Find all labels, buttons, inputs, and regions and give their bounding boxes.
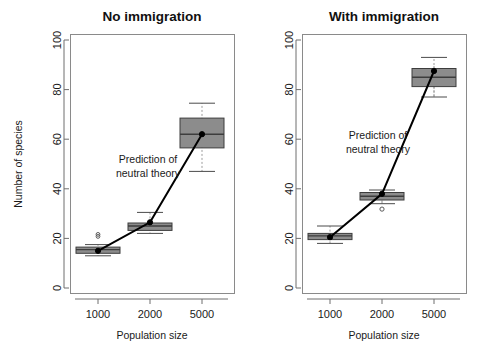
x-tick-label-1000-right: 1000 bbox=[318, 308, 342, 320]
prediction-point bbox=[95, 248, 100, 253]
y-tick-label-80: 80 bbox=[51, 83, 63, 95]
y-tick-label-40: 40 bbox=[51, 183, 63, 195]
x-tick-label-2000-right: 2000 bbox=[370, 308, 394, 320]
y-tick-label-80-right: 80 bbox=[283, 83, 295, 95]
prediction-point bbox=[431, 68, 436, 73]
prediction-point bbox=[327, 235, 332, 240]
prediction-point bbox=[147, 220, 152, 225]
x-tick-label-2000-left: 2000 bbox=[138, 308, 162, 320]
figure-container: No immigration 0 20 40 60 80 100 Number … bbox=[0, 0, 492, 345]
prediction-point bbox=[379, 191, 384, 196]
y-tick-label-40-right: 40 bbox=[283, 183, 295, 195]
y-tick-label-0-right: 0 bbox=[283, 285, 295, 291]
y-tick-label-100: 100 bbox=[51, 31, 63, 49]
prediction-annotation-line1: Prediction of bbox=[349, 129, 407, 141]
prediction-annotation-line2: neutral theory bbox=[346, 143, 411, 155]
y-tick-label-100-right: 100 bbox=[283, 31, 295, 49]
y-tick-label-20-right: 20 bbox=[283, 232, 295, 244]
x-axis-title-right: Population size bbox=[348, 329, 419, 341]
prediction-annotation-line1: Prediction of bbox=[119, 153, 177, 165]
x-tick-label-5000-left: 5000 bbox=[190, 308, 214, 320]
prediction-annotation-line2: neutral theory bbox=[116, 167, 181, 179]
y-axis-title-left: Number of species bbox=[12, 120, 24, 208]
boxplot-figure: No immigration 0 20 40 60 80 100 Number … bbox=[0, 0, 492, 345]
x-tick-label-5000-right: 5000 bbox=[422, 308, 446, 320]
x-tick-label-1000-left: 1000 bbox=[86, 308, 110, 320]
y-tick-label-60: 60 bbox=[51, 133, 63, 145]
y-tick-label-60-right: 60 bbox=[283, 133, 295, 145]
y-tick-label-20: 20 bbox=[51, 232, 63, 244]
panel-title-with-immigration: With immigration bbox=[329, 9, 439, 24]
panel-title-no-immigration: No immigration bbox=[102, 9, 201, 24]
prediction-point bbox=[199, 132, 204, 137]
x-axis-title-left: Population size bbox=[116, 329, 187, 341]
y-tick-label-0: 0 bbox=[51, 285, 63, 291]
